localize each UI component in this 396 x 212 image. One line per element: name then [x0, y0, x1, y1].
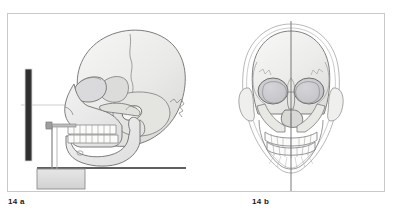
panel-frontal-skull	[197, 14, 386, 193]
instrument-base-block	[37, 169, 85, 189]
arm-clamp	[46, 122, 52, 129]
caption-panel-b: 14 b	[252, 197, 269, 206]
caption-panel-a: 14 a	[8, 197, 25, 206]
vertical-scale-bar	[25, 69, 32, 161]
panel-lateral-skull	[8, 14, 197, 193]
skull-lateral-group	[65, 30, 186, 166]
frontal-skull-figure	[197, 14, 386, 193]
lower-teeth	[68, 135, 118, 143]
plate-frame	[7, 13, 385, 192]
lateral-skull-figure	[8, 14, 197, 193]
figure-plate: 14 a 14 b	[0, 0, 396, 212]
ear-right	[328, 88, 344, 121]
ear-left	[239, 88, 255, 121]
